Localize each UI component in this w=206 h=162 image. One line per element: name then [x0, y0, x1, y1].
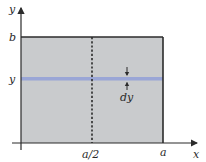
strip-integration-diagram: y x b y dy a/2 a [0, 0, 206, 162]
x-axis-label: x [193, 148, 200, 161]
width-label-a: a [160, 146, 167, 159]
strip-position-label-y: y [8, 73, 16, 86]
height-label-b: b [9, 31, 16, 44]
strip-thickness-label-dy: dy [120, 91, 134, 104]
y-axis-label: y [8, 3, 16, 16]
midpoint-label: a/2 [82, 148, 99, 161]
